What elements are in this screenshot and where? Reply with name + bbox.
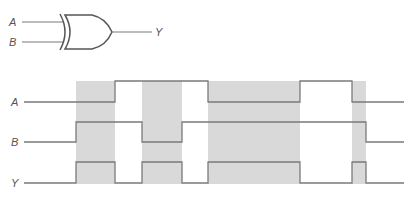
timing-label-b: B (11, 136, 18, 148)
shaded-intervals (76, 81, 366, 184)
xor-extra-arc (60, 14, 65, 50)
gate-input-a-label: A (8, 16, 16, 28)
shade-interval-3 (208, 81, 300, 184)
xor-gate-symbol: A B Y (8, 14, 163, 50)
gate-input-b-label: B (9, 36, 16, 48)
xor-diagram: A B Y A B Y (0, 0, 417, 198)
shade-interval-1 (76, 81, 115, 184)
xor-gate-body (65, 15, 112, 49)
gate-output-y-label: Y (155, 26, 163, 38)
shade-interval-4 (352, 81, 366, 184)
shade-interval-2 (142, 81, 182, 184)
timing-label-a: A (10, 96, 18, 108)
timing-label-y: Y (11, 177, 19, 189)
